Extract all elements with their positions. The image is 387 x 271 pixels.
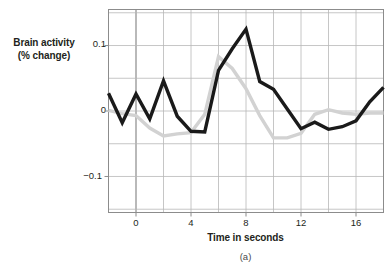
x-axis-title: Time in seconds [108,232,383,243]
figure-caption: (a) [108,251,383,262]
line-chart-plot [0,0,387,271]
axis-tick-marks [105,46,357,217]
grid-lines [109,10,384,213]
figure-panel: Brain activity (% change) 0.1 0 −0.1 0 4… [0,0,387,271]
